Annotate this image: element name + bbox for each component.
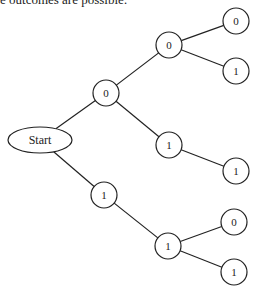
tree-edge	[56, 101, 96, 129]
tree-edge	[180, 226, 222, 241]
tree-node-n11: 1	[155, 233, 181, 259]
start-node-label: Start	[29, 133, 52, 147]
tree-node-label: 1	[166, 139, 172, 151]
tree-node-label: 0	[231, 216, 237, 228]
tree-node-label: 1	[101, 189, 107, 201]
tree-node-label: 1	[231, 266, 237, 278]
tree-node-label: 0	[103, 87, 109, 99]
tree-node-label: 0	[166, 39, 172, 51]
tree-edges	[54, 25, 224, 267]
tree-node-n00: 0	[156, 32, 182, 58]
tree-edge	[116, 101, 159, 136]
tree-node-n1: 1	[91, 182, 117, 208]
tree-node-n0: 0	[93, 80, 119, 106]
start-node: Start	[8, 127, 72, 153]
tree-edge	[181, 50, 224, 67]
tree-node-n001: 1	[223, 58, 249, 84]
tree-node-n01: 1	[156, 132, 182, 158]
tree-edge	[181, 150, 224, 167]
tree-edge	[180, 251, 222, 267]
tree-node-n011: 1	[223, 158, 249, 184]
tree-node-label: 1	[233, 65, 239, 77]
tree-node-n000: 0	[223, 8, 249, 34]
tree-node-label: 1	[165, 240, 171, 252]
tree-edge	[114, 203, 158, 238]
tree-edge	[116, 53, 158, 85]
tree-edge	[54, 152, 94, 187]
tree-node-label: 1	[233, 165, 239, 177]
tree-nodes: Start0101101101	[8, 8, 249, 285]
tree-node-n110: 0	[221, 209, 247, 235]
tree-node-label: 0	[233, 15, 239, 27]
outcome-tree-diagram: Start0101101101	[0, 0, 258, 294]
tree-edge	[181, 25, 224, 40]
tree-node-n111: 1	[221, 259, 247, 285]
